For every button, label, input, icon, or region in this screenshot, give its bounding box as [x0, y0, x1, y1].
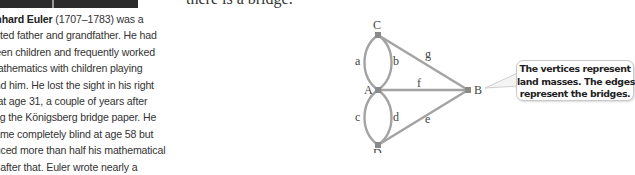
vertex-A	[375, 87, 381, 93]
edge-label-d: d	[393, 110, 399, 124]
edge-label-g: g	[425, 47, 431, 61]
vertex-C	[375, 32, 381, 38]
vertex-label-B: B	[474, 83, 482, 97]
edge-label-a: a	[355, 54, 361, 68]
callout-line: land masses. The edges	[517, 76, 633, 89]
vertex-label-D: D	[373, 146, 382, 153]
edge-a	[365, 35, 379, 90]
vertex-B	[465, 87, 471, 93]
edge-label-f: f	[417, 76, 421, 90]
edge-label-c: c	[355, 110, 360, 124]
callout-note: The vertices represent land masses. The …	[516, 60, 634, 101]
callout-line: represent the bridges.	[517, 88, 633, 101]
edge-label-e: e	[425, 112, 430, 126]
bio-line: rk after that. Euler wrote nearly a	[0, 159, 174, 175]
callout-line: The vertices represent	[517, 63, 633, 76]
edge-label-b: b	[393, 54, 399, 68]
edge-c	[365, 90, 379, 145]
vertex-label-A: A	[364, 83, 373, 97]
vertex-label-C: C	[373, 18, 381, 32]
callout-pointer	[485, 72, 520, 88]
